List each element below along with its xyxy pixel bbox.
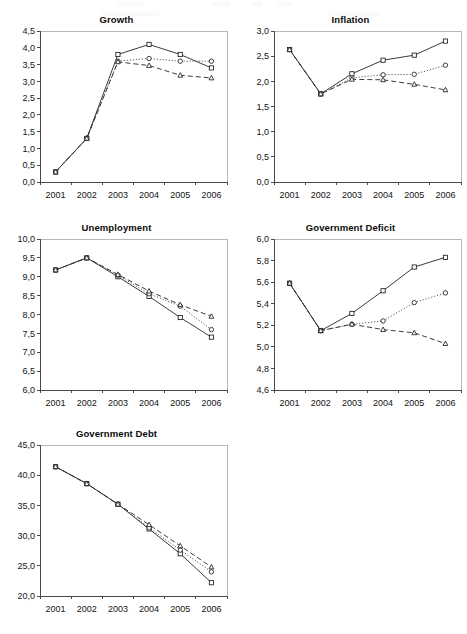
svg-text:2005: 2005 [170, 604, 190, 614]
svg-text:6,5: 6,5 [22, 366, 35, 376]
svg-text:2006: 2006 [201, 604, 221, 614]
svg-text:2002: 2002 [77, 398, 97, 408]
svg-text:4,6: 4,6 [256, 385, 269, 395]
plot-area-government-deficit: 4,64,85,05,25,45,65,86,02001200220032004… [234, 222, 467, 418]
svg-text:1,5: 1,5 [256, 102, 269, 112]
chart-panel-inflation: Inflation 0,00,51,01,52,02,53,0200120022… [234, 14, 467, 210]
svg-text:25,0: 25,0 [17, 561, 35, 571]
svg-text:5,2: 5,2 [256, 320, 269, 330]
svg-text:6,0: 6,0 [22, 385, 35, 395]
svg-text:3,0: 3,0 [256, 26, 269, 36]
chart-panel-unemployment: Unemployment 6,06,57,07,58,08,59,09,510,… [0, 222, 233, 418]
figure-sheet: Growth 0,00,51,01,52,02,53,03,54,04,5200… [0, 0, 467, 634]
svg-text:2002: 2002 [77, 190, 97, 200]
svg-text:40,0: 40,0 [17, 470, 35, 480]
svg-text:2004: 2004 [139, 398, 159, 408]
svg-text:6,0: 6,0 [256, 234, 269, 244]
svg-text:2002: 2002 [311, 190, 331, 200]
svg-text:5,8: 5,8 [256, 256, 269, 266]
svg-text:2,5: 2,5 [22, 93, 35, 103]
svg-text:2006: 2006 [435, 190, 455, 200]
svg-text:2005: 2005 [404, 190, 424, 200]
scan-artifact [252, 1, 262, 6]
svg-text:10,0: 10,0 [17, 234, 35, 244]
scan-artifact [278, 2, 292, 6]
svg-text:4,5: 4,5 [22, 26, 35, 36]
svg-text:2001: 2001 [46, 604, 66, 614]
svg-text:2003: 2003 [108, 604, 128, 614]
svg-text:3,0: 3,0 [22, 77, 35, 87]
svg-text:2002: 2002 [77, 604, 97, 614]
svg-text:2,5: 2,5 [256, 51, 269, 61]
svg-text:4,8: 4,8 [256, 364, 269, 374]
svg-text:2001: 2001 [280, 190, 300, 200]
svg-text:2004: 2004 [373, 398, 393, 408]
svg-text:9,0: 9,0 [22, 272, 35, 282]
svg-text:8,5: 8,5 [22, 291, 35, 301]
svg-text:2005: 2005 [170, 398, 190, 408]
svg-text:9,5: 9,5 [22, 253, 35, 263]
svg-text:5,0: 5,0 [256, 342, 269, 352]
svg-text:2,0: 2,0 [256, 77, 269, 87]
svg-text:2003: 2003 [108, 190, 128, 200]
svg-text:2002: 2002 [311, 398, 331, 408]
svg-text:2003: 2003 [342, 398, 362, 408]
chart-panel-government-deficit: Government Deficit 4,64,85,05,25,45,65,8… [234, 222, 467, 418]
svg-text:2005: 2005 [404, 398, 424, 408]
svg-text:5,6: 5,6 [256, 277, 269, 287]
scan-artifact [118, 2, 144, 6]
svg-text:2,0: 2,0 [22, 110, 35, 120]
svg-text:0,0: 0,0 [22, 177, 35, 187]
svg-text:0,5: 0,5 [22, 160, 35, 170]
svg-text:8,0: 8,0 [22, 310, 35, 320]
svg-text:0,0: 0,0 [256, 177, 269, 187]
svg-text:2006: 2006 [201, 190, 221, 200]
svg-text:20,0: 20,0 [17, 591, 35, 601]
plot-area-inflation: 0,00,51,01,52,02,53,02001200220032004200… [234, 14, 467, 210]
svg-text:2001: 2001 [46, 398, 66, 408]
svg-text:0,5: 0,5 [256, 152, 269, 162]
svg-text:2006: 2006 [201, 398, 221, 408]
svg-text:3,5: 3,5 [22, 60, 35, 70]
svg-text:1,0: 1,0 [256, 127, 269, 137]
svg-text:2006: 2006 [435, 398, 455, 408]
svg-text:2004: 2004 [373, 190, 393, 200]
plot-area-unemployment: 6,06,57,07,58,08,59,09,510,0200120022003… [0, 222, 233, 418]
svg-text:45,0: 45,0 [17, 440, 35, 450]
svg-text:1,0: 1,0 [22, 144, 35, 154]
svg-text:2004: 2004 [139, 190, 159, 200]
svg-text:2004: 2004 [139, 604, 159, 614]
svg-text:2001: 2001 [280, 398, 300, 408]
plot-area-growth: 0,00,51,01,52,02,53,03,54,04,52001200220… [0, 14, 233, 210]
svg-text:7,0: 7,0 [22, 347, 35, 357]
chart-panel-growth: Growth 0,00,51,01,52,02,53,03,54,04,5200… [0, 14, 233, 210]
scan-artifact [212, 1, 230, 6]
svg-text:2003: 2003 [342, 190, 362, 200]
svg-text:7,5: 7,5 [22, 329, 35, 339]
svg-text:35,0: 35,0 [17, 501, 35, 511]
svg-text:2005: 2005 [170, 190, 190, 200]
svg-text:1,5: 1,5 [22, 127, 35, 137]
svg-text:4,0: 4,0 [22, 43, 35, 53]
chart-panel-government-debt: Government Debt 20,025,030,035,040,045,0… [0, 428, 233, 624]
svg-text:5,4: 5,4 [256, 299, 269, 309]
plot-area-government-debt: 20,025,030,035,040,045,02001200220032004… [0, 428, 233, 624]
svg-text:2003: 2003 [108, 398, 128, 408]
svg-text:30,0: 30,0 [17, 531, 35, 541]
svg-text:2001: 2001 [46, 190, 66, 200]
